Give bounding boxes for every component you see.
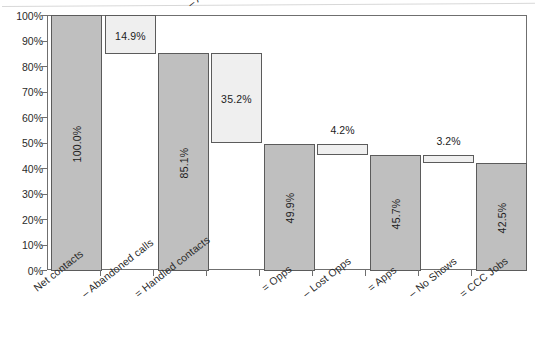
y-axis-tick-label: 50% (3, 138, 43, 148)
x-axis-tick-mark (418, 270, 419, 276)
y-axis-tick-label: 100% (3, 11, 43, 21)
bar-value-label: 49.9% (284, 193, 296, 224)
bar-value-label: 45.7% (390, 199, 402, 230)
y-axis-tick-label: 10% (3, 240, 43, 250)
bar-value-label: 14.9% (115, 30, 146, 42)
bar-add-junk-no-wo[interactable]: 35.2% (211, 53, 262, 143)
bar-value-label: 4.2% (317, 124, 368, 136)
x-axis-tick-mark (365, 270, 366, 276)
bar-lost-opps[interactable] (317, 144, 368, 155)
bar-value-label: 85.1% (178, 148, 190, 179)
x-axis-tick-mark (312, 270, 313, 276)
y-axis-tick-label: 20% (3, 215, 43, 225)
bar-net-contacts[interactable]: 100.0% (51, 15, 102, 271)
y-axis-tick-label: 70% (3, 87, 43, 97)
bar-opps[interactable]: 49.9% (264, 144, 315, 271)
x-axis-tick-mark (259, 270, 260, 276)
bar-apps[interactable]: 45.7% (370, 155, 421, 271)
bar-value-label: 100.0% (71, 126, 83, 163)
bar-value-label: 3.2% (423, 135, 474, 147)
x-axis-tick-mark (471, 270, 472, 276)
bar-value-label: 42.5% (496, 203, 508, 234)
y-axis-tick-label: 60% (3, 113, 43, 123)
plot-area: 100.0% 14.9% 85.1% 35.2% 49.9% 4.2% 45.7… (47, 15, 527, 270)
y-axis-tick-label: 80% (3, 62, 43, 72)
y-axis-tick-label: 40% (3, 164, 43, 174)
bar-value-label: 35.2% (221, 93, 252, 105)
bar-no-shows[interactable] (423, 155, 474, 163)
y-axis-tick-label: 30% (3, 189, 43, 199)
scan-artifact-line (2, 3, 535, 7)
bar-abandoned-calls[interactable]: 14.9% (105, 15, 156, 54)
waterfall-chart: 100% 90% 80% 70% 60% 50% 40% 30% 20% 10%… (0, 0, 537, 359)
y-axis-tick-label: 0% (3, 266, 43, 276)
y-axis-tick-label: 90% (3, 36, 43, 46)
x-axis-tick-mark (206, 270, 207, 276)
